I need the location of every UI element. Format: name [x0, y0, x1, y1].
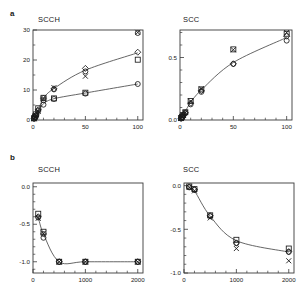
chart-a-left: 0102030050100	[0, 0, 150, 150]
panel-a-left-title: SCCH	[38, 16, 60, 24]
svg-text:50: 50	[82, 123, 89, 130]
figure-row-b: b SCCH 0.0-0.5-1.0010002000 SCC 0.0-0.5-…	[0, 150, 303, 300]
panel-a-right-title: SCC	[183, 16, 199, 24]
svg-text:1000: 1000	[78, 276, 92, 283]
panel-a-left: SCCH 0102030050100	[0, 0, 150, 150]
svg-text:-0.5: -0.5	[19, 220, 30, 227]
svg-text:0: 0	[182, 276, 186, 283]
panel-b-right-title: SCC	[183, 166, 199, 174]
panel-b-right: SCC 0.0-0.5-1.0010002000	[150, 150, 303, 301]
svg-text:0.0: 0.0	[168, 116, 177, 123]
svg-text:100: 100	[282, 123, 293, 130]
svg-text:-0.5: -0.5	[170, 226, 181, 233]
panel-b-left-title: SCCH	[38, 166, 60, 174]
svg-text:-1.0: -1.0	[19, 258, 30, 265]
svg-text:100: 100	[133, 123, 144, 130]
svg-text:-1.0: -1.0	[170, 269, 181, 276]
figure-panel-grid: a SCCH 0102030050100 SCC 0.00.5050100 b …	[0, 0, 303, 301]
svg-text:0.0: 0.0	[172, 182, 181, 189]
svg-text:20: 20	[23, 56, 30, 63]
panel-a-right: SCC 0.00.5050100	[150, 0, 303, 150]
chart-a-right: 0.00.5050100	[150, 0, 303, 150]
svg-text:30: 30	[23, 26, 30, 33]
svg-text:50: 50	[230, 123, 237, 130]
svg-text:0: 0	[178, 123, 182, 130]
svg-text:0.0: 0.0	[21, 183, 30, 190]
svg-text:0: 0	[27, 116, 31, 123]
chart-b-right: 0.0-0.5-1.0010002000	[150, 150, 303, 301]
svg-text:2000: 2000	[131, 276, 145, 283]
svg-text:10: 10	[23, 86, 30, 93]
chart-b-left: 0.0-0.5-1.0010002000	[0, 150, 150, 301]
panel-b-left: SCCH 0.0-0.5-1.0010002000	[0, 150, 150, 301]
figure-row-a: a SCCH 0102030050100 SCC 0.00.5050100	[0, 0, 303, 150]
svg-text:2000: 2000	[282, 276, 296, 283]
svg-text:0.5: 0.5	[168, 54, 177, 61]
svg-text:0: 0	[31, 123, 35, 130]
svg-text:0: 0	[31, 276, 35, 283]
svg-text:1000: 1000	[229, 276, 243, 283]
